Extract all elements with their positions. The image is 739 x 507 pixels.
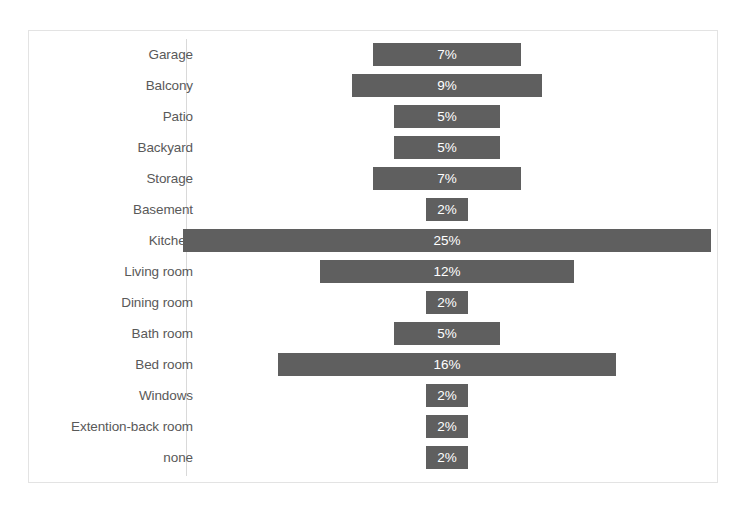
bar-wrapper: 7% xyxy=(29,39,717,70)
bar-wrapper: 5% xyxy=(29,132,717,163)
bar xyxy=(394,136,500,159)
bar xyxy=(373,43,521,66)
bar-row: Garage7% xyxy=(29,39,717,70)
bar-row: Dining room2% xyxy=(29,287,717,318)
bar-wrapper: 16% xyxy=(29,349,717,380)
bar xyxy=(426,384,468,407)
bar xyxy=(426,415,468,438)
bar-wrapper: 12% xyxy=(29,256,717,287)
bar-row: Bath room5% xyxy=(29,318,717,349)
bar xyxy=(394,322,500,345)
bar-wrapper: 9% xyxy=(29,70,717,101)
bar-row: none2% xyxy=(29,442,717,473)
bar-row: Patio5% xyxy=(29,101,717,132)
bar-wrapper: 7% xyxy=(29,163,717,194)
bar-wrapper: 2% xyxy=(29,442,717,473)
bar xyxy=(352,74,542,97)
bar-row: Bed room16% xyxy=(29,349,717,380)
bar-row: Kitchen25% xyxy=(29,225,717,256)
bar-wrapper: 2% xyxy=(29,287,717,318)
bar-wrapper: 5% xyxy=(29,101,717,132)
bar-row: Backyard5% xyxy=(29,132,717,163)
bar-row: Windows2% xyxy=(29,380,717,411)
bar-wrapper: 2% xyxy=(29,380,717,411)
bar xyxy=(278,353,616,376)
bar xyxy=(426,198,468,221)
bar-row: Storage7% xyxy=(29,163,717,194)
bar-wrapper: 25% xyxy=(29,225,717,256)
bar-row: Basement2% xyxy=(29,194,717,225)
bar-wrapper: 2% xyxy=(29,194,717,225)
bar-wrapper: 5% xyxy=(29,318,717,349)
bar-row: Living room12% xyxy=(29,256,717,287)
bar xyxy=(373,167,521,190)
bar-row: Extention-back room2% xyxy=(29,411,717,442)
bar xyxy=(183,229,712,252)
bar-wrapper: 2% xyxy=(29,411,717,442)
bar xyxy=(320,260,574,283)
bar xyxy=(426,446,468,469)
chart-plot-area: Garage7%Balcony9%Patio5%Backyard5%Storag… xyxy=(28,30,718,483)
bar xyxy=(426,291,468,314)
chart-canvas: Garage7%Balcony9%Patio5%Backyard5%Storag… xyxy=(29,31,717,482)
bar xyxy=(394,105,500,128)
bar-row: Balcony9% xyxy=(29,70,717,101)
